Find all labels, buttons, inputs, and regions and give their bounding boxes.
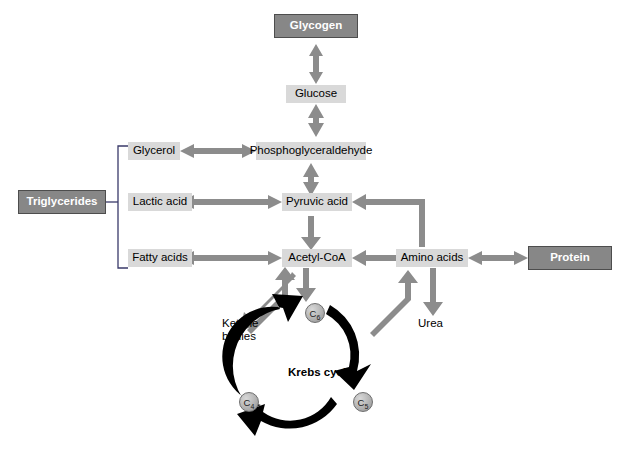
arrow-glycogen-glucose (309, 44, 323, 84)
node-acetyl-coa[interactable]: Acetyl-CoA (282, 249, 352, 267)
label-ketone-bodies: Ketone bodies (222, 317, 258, 343)
arrow-aminoacids-protein (468, 251, 528, 265)
label-urea: Urea (418, 317, 443, 330)
arrow-glycerol-phosphoglyceraldehyde (180, 144, 256, 158)
node-protein-label: Protein (550, 252, 590, 264)
arrow-aminoacids-pyruvic (352, 194, 425, 247)
arrow-lactic-pyruvic (180, 195, 282, 209)
node-phosphoglyceraldehyde-label: Phosphoglyceraldehyde (250, 145, 373, 157)
node-protein[interactable]: Protein (528, 246, 612, 270)
node-pyruvic-acid[interactable]: Pyruvic acid (282, 193, 352, 211)
label-ketone-bodies-line2: bodies (222, 330, 258, 343)
krebs-c6-subscript: 6 (316, 313, 320, 320)
krebs-cycle-arrows (222, 294, 371, 436)
label-ketone-bodies-line1: Ketone (222, 317, 258, 330)
arrow-pyruvic-acetylcoa (301, 216, 321, 250)
krebs-c5-subscript: 5 (364, 402, 368, 409)
bracket-triglycerides (106, 146, 128, 268)
node-triglycerides-label: Triglycerides (27, 196, 98, 208)
node-amino-acids-label: Amino acids (401, 252, 464, 264)
arrow-krebs-aminoacids (370, 270, 418, 337)
node-glycogen[interactable]: Glycogen (274, 14, 358, 38)
node-glycerol-label: Glycerol (133, 145, 175, 157)
node-amino-acids[interactable]: Amino acids (396, 249, 468, 267)
node-glucose[interactable]: Glucose (286, 85, 346, 103)
arrow-aminoacids-acetylcoa (352, 250, 396, 266)
node-lactic-acid-label: Lactic acid (133, 196, 187, 208)
arrow-glucose-phosphoglyceraldehyde (308, 104, 324, 137)
krebs-arc-left (222, 294, 303, 409)
metabolic-pathway-diagram: Glycogen Glucose Glycerol Phosphoglycera… (0, 0, 629, 458)
node-acetyl-coa-label: Acetyl-CoA (288, 252, 346, 264)
node-fatty-acids[interactable]: Fatty acids (128, 249, 192, 267)
arrow-phosphoglyceraldehyde-pyruvic (303, 163, 319, 196)
node-lactic-acid[interactable]: Lactic acid (128, 193, 192, 211)
node-glycogen-label: Glycogen (290, 20, 342, 32)
krebs-c4-subscript: 4 (250, 402, 254, 409)
krebs-intermediate-c5: C5 (353, 392, 373, 412)
label-krebs-cycle: Krebs cycle (288, 366, 353, 378)
node-glucose-label: Glucose (295, 88, 337, 100)
krebs-intermediate-c6: C6 (305, 303, 325, 323)
node-glycerol[interactable]: Glycerol (128, 142, 180, 160)
connector-layer (0, 0, 629, 458)
node-pyruvic-acid-label: Pyruvic acid (286, 196, 348, 208)
arrow-aminoacids-urea (423, 268, 443, 316)
arrow-fattyacids-acetylcoa (180, 251, 282, 265)
krebs-intermediate-c4: C4 (239, 392, 259, 412)
node-phosphoglyceraldehyde[interactable]: Phosphoglyceraldehyde (256, 142, 366, 160)
node-fatty-acids-label: Fatty acids (132, 252, 188, 264)
node-triglycerides[interactable]: Triglycerides (18, 190, 106, 214)
